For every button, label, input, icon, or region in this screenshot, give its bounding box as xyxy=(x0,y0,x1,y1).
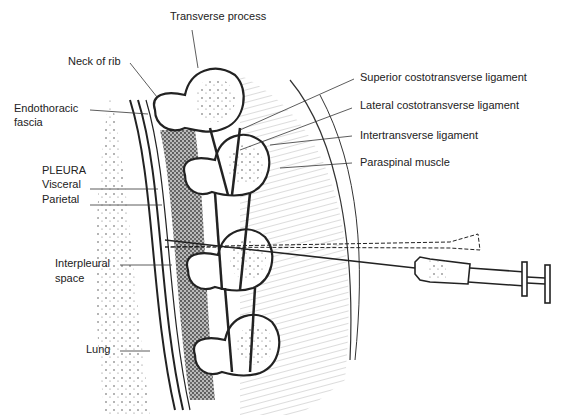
lung-region xyxy=(96,95,150,415)
label-space: space xyxy=(55,272,84,285)
label-pleura: PLEURA xyxy=(42,164,86,177)
label-endothoracic: Endothoracic xyxy=(14,102,78,115)
label-fascia: fascia xyxy=(14,116,43,129)
label-transverse-process: Transverse process xyxy=(170,10,266,23)
anatomy-diagram: Transverse process Neck of rib Endothora… xyxy=(0,0,566,415)
label-visceral: Visceral xyxy=(42,178,81,191)
label-lateral-ligament: Lateral costotransverse ligament xyxy=(360,99,519,112)
label-superior-ligament: Superior costotransverse ligament xyxy=(360,71,527,84)
label-lung: Lung xyxy=(86,343,110,356)
label-interpleural: Interpleural xyxy=(55,257,110,270)
label-intertransverse-ligament: Intertransverse ligament xyxy=(360,129,478,142)
label-parietal: Parietal xyxy=(42,193,79,206)
label-paraspinal-muscle: Paraspinal muscle xyxy=(360,156,450,169)
label-neck-of-rib: Neck of rib xyxy=(68,55,121,68)
